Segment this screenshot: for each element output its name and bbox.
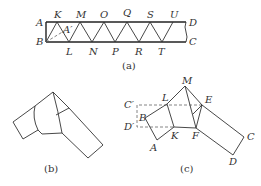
label-a-prime: A′ [62,24,73,35]
square-blka [145,104,174,140]
label-a-c: A [149,142,157,153]
figure-c: M L E C′ D′ B K F A C D (c) [123,75,255,174]
strip-break-edge [185,22,187,42]
label-m: M [75,9,87,20]
label-q: Q [123,7,131,18]
label-n: N [88,46,99,57]
right-strip-end [88,145,103,158]
label-d-prime: D′ [123,121,135,132]
label-d: D [188,17,197,28]
label-r: R [134,46,143,57]
line-ec [202,105,244,137]
label-a: A [35,17,43,28]
label-s: S [147,9,154,20]
right-strip-top-edge [69,108,103,145]
label-p: P [111,46,119,57]
label-l-c: L [161,92,169,103]
caption-b: (b) [44,163,58,174]
label-e-c: E [204,94,213,105]
label-c-prime: C′ [124,99,135,110]
label-o: O [100,9,108,20]
line-fd [196,128,233,155]
line-kf [174,127,196,128]
right-strip-bottom-edge [62,133,88,158]
figure-b: (b) [13,92,103,174]
line-cd [233,137,244,155]
label-u: U [170,9,179,20]
folding-diagram: A B D C A′ K M O Q S U L N P R T (a) (b) [0,0,261,186]
label-c: C [189,36,197,47]
label-m-c: M [181,75,193,86]
label-b: B [35,36,43,47]
knot-top-right [53,92,69,115]
label-d-c: D [228,156,237,167]
label-t: T [158,46,166,57]
knot-top-left [35,92,53,106]
label-k: K [53,9,62,20]
figure-a: A B D C A′ K M O Q S U L N P R T (a) [35,7,197,71]
label-c-c: C [247,131,255,142]
label-l: L [65,46,73,57]
label-f-c: F [191,130,200,141]
label-b-c: B [138,112,146,123]
line-lm [167,86,185,104]
label-k-c: K [170,130,179,141]
caption-c: (c) [180,163,194,174]
dashed-guide [137,105,202,127]
caption-a: (a) [122,60,136,71]
